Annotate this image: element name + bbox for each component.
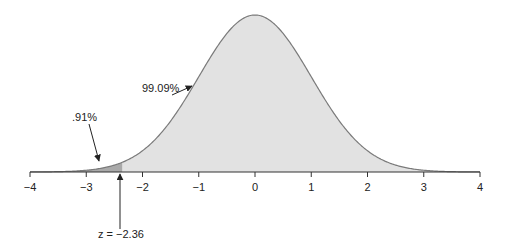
x-tick-label: −2: [136, 181, 149, 193]
x-tick-label: 3: [421, 181, 427, 193]
x-tick-label: 0: [252, 181, 258, 193]
x-tick-label: 1: [308, 181, 314, 193]
x-tick-label: −4: [24, 181, 37, 193]
x-tick-label: −3: [80, 181, 93, 193]
normal-curve-chart: −4−3−2−101234 99.09% .91% z = −2.36: [0, 0, 505, 246]
tail-arrow: [89, 124, 99, 161]
x-tick-label: 2: [364, 181, 370, 193]
x-tick-label: 4: [477, 181, 483, 193]
tail-percent-label: .91%: [72, 111, 97, 123]
body-percent-label: 99.09%: [142, 82, 180, 94]
x-tick-label: −1: [192, 181, 205, 193]
z-value-label: z = −2.36: [98, 228, 144, 240]
x-axis-ticks: −4−3−2−101234: [24, 172, 483, 193]
